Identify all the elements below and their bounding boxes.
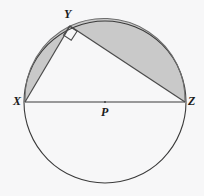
vertex-label-z: Z (188, 95, 195, 107)
geometry-figure: X Y Z P (0, 0, 204, 196)
center-point-p (104, 101, 106, 103)
vertex-label-x: X (13, 95, 21, 107)
circle-diagram-svg (0, 0, 204, 196)
segment-xy-chord (25, 26, 70, 102)
vertex-label-y: Y (64, 8, 71, 20)
center-label-p: P (101, 106, 108, 118)
shaded-segment-yz (70, 19, 185, 102)
